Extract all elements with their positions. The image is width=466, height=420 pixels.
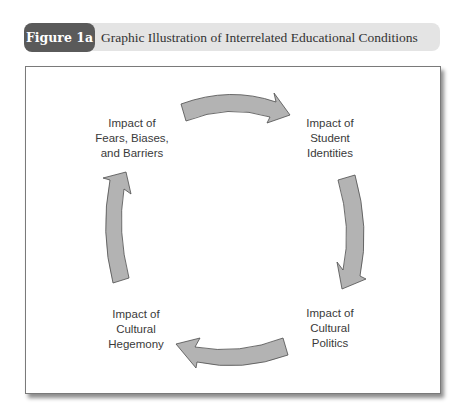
- cycle-arrows: [0, 0, 466, 420]
- arrow-up-icon: [103, 172, 131, 283]
- node-line: Impact of: [270, 306, 390, 321]
- node-line: Impact of: [270, 116, 390, 131]
- arrow-down-icon: [337, 175, 366, 289]
- node-line: Hegemony: [76, 337, 196, 352]
- node-line: Impact of: [76, 307, 196, 322]
- node-line: Identities: [270, 146, 390, 161]
- node-cultural-hegemony: Impact of Cultural Hegemony: [76, 307, 196, 352]
- node-line: Cultural: [76, 322, 196, 337]
- node-line: Politics: [270, 336, 390, 351]
- node-line: Cultural: [270, 321, 390, 336]
- node-line: Impact of: [72, 116, 192, 131]
- node-fears-biases-barriers: Impact of Fears, Biases, and Barriers: [72, 116, 192, 161]
- node-cultural-politics: Impact of Cultural Politics: [270, 306, 390, 351]
- node-line: and Barriers: [72, 146, 192, 161]
- node-student-identities: Impact of Student Identities: [270, 116, 390, 161]
- node-line: Student: [270, 131, 390, 146]
- node-line: Fears, Biases,: [72, 131, 192, 146]
